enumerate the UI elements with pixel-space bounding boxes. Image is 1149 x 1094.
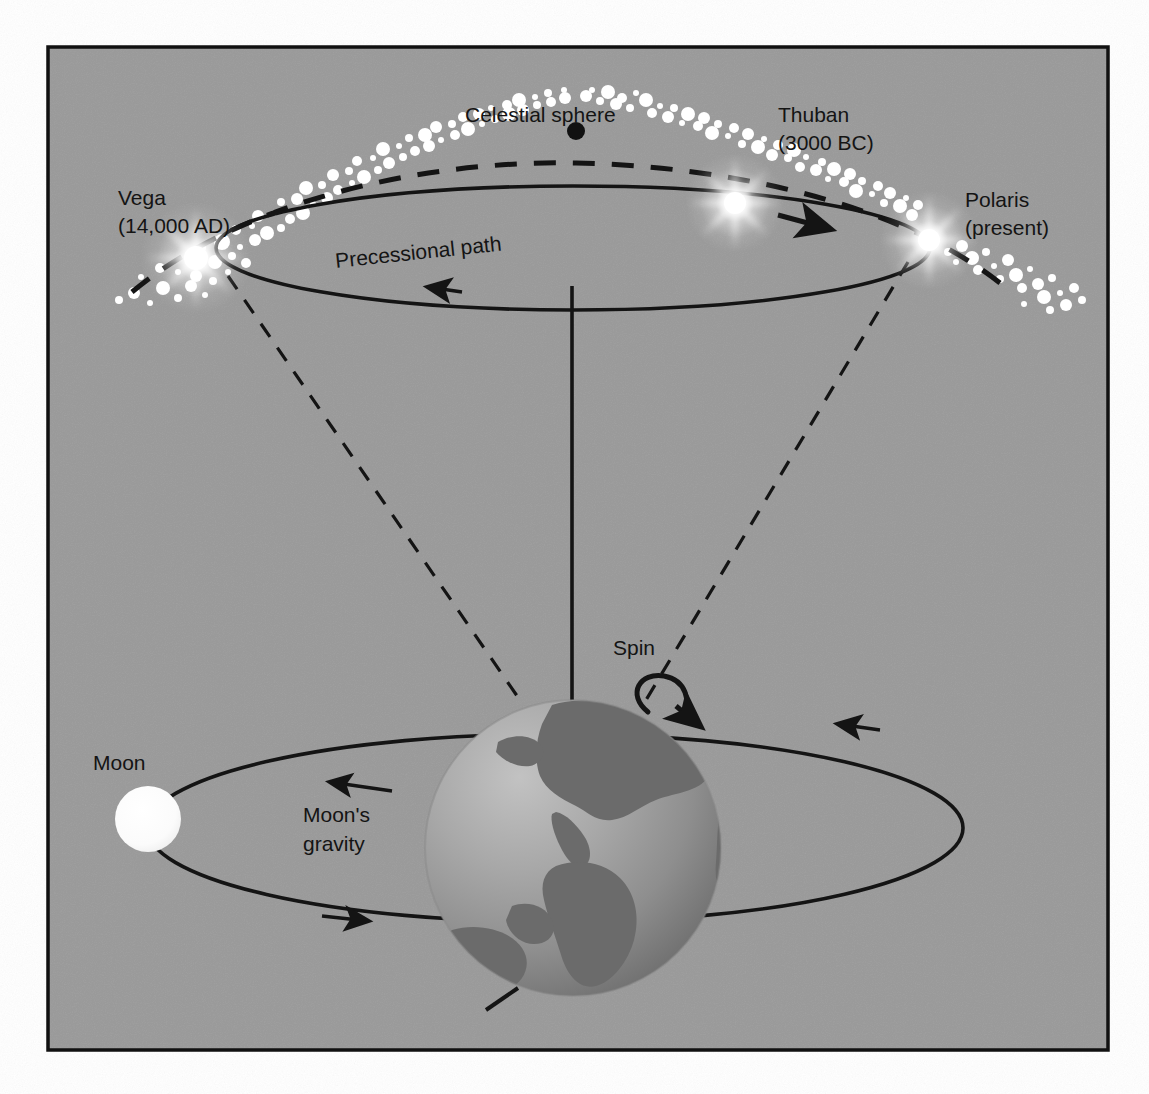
label-moon: Moon [93, 751, 146, 774]
label-polaris-date: (present) [965, 216, 1049, 239]
label-vega: Vega [118, 186, 166, 209]
label-spin: Spin [613, 636, 655, 659]
precession-diagram: Celestial sphere Thuban (3000 BC) Polari… [0, 0, 1149, 1094]
label-moons-gravity-line2: gravity [303, 832, 365, 855]
star-polaris [879, 190, 979, 290]
label-celestial-sphere: Celestial sphere [465, 103, 616, 126]
star-thuban [685, 153, 785, 253]
label-thuban-date: (3000 BC) [778, 131, 874, 154]
label-thuban: Thuban [778, 103, 849, 126]
moon-body [115, 786, 181, 852]
label-moons-gravity-line1: Moon's [303, 803, 370, 826]
label-vega-date: (14,000 AD) [118, 214, 230, 237]
label-polaris: Polaris [965, 188, 1029, 211]
figure-root: Celestial sphere Thuban (3000 BC) Polari… [0, 0, 1149, 1094]
